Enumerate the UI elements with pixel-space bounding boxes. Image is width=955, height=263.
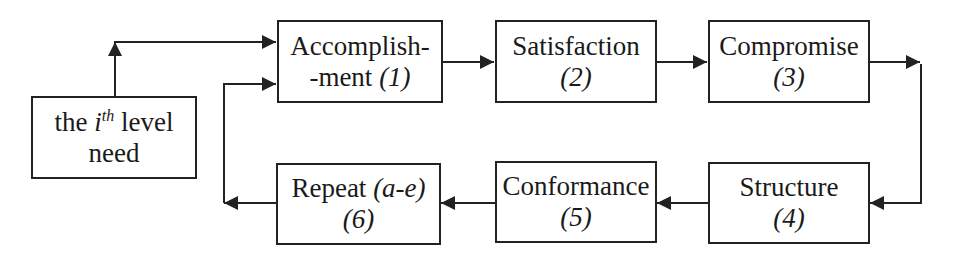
need-variable: i	[94, 107, 102, 137]
arrow-loop-to-accomplishment	[224, 84, 276, 203]
need-text-line2: need	[89, 138, 140, 169]
node-structure: Structure (4)	[708, 162, 870, 244]
node-label-italic: (a-e)	[373, 173, 425, 203]
arrow-need-to-accomplishment	[115, 42, 276, 96]
node-ith-level-need: the ith level need	[31, 96, 197, 179]
need-text-suffix: level	[114, 107, 173, 137]
arrow-to-structure	[870, 64, 921, 203]
node-number: (1)	[379, 62, 410, 92]
node-number: (2)	[560, 62, 591, 93]
node-label-cont: -ment	[309, 62, 379, 92]
node-label: Structure	[740, 172, 839, 203]
need-text-prefix: the	[55, 107, 95, 137]
node-label: Compromise	[719, 31, 859, 62]
node-label: Satisfaction	[512, 31, 639, 62]
node-label: Accomplish-	[290, 31, 429, 62]
node-number: (6)	[343, 204, 374, 235]
node-accomplishment: Accomplish- -ment (1)	[277, 20, 443, 103]
node-number: (4)	[773, 203, 804, 234]
arrowhead-up	[108, 42, 122, 56]
node-number: (3)	[773, 62, 804, 93]
node-satisfaction: Satisfaction (2)	[495, 20, 657, 103]
node-label: Conformance	[503, 171, 650, 202]
node-repeat: Repeat (a-e) (6)	[276, 163, 441, 245]
need-superscript: th	[102, 107, 114, 124]
node-label: Repeat	[291, 173, 373, 203]
node-compromise: Compromise (3)	[708, 20, 870, 103]
node-number: (5)	[560, 202, 591, 233]
node-conformance: Conformance (5)	[495, 161, 657, 243]
